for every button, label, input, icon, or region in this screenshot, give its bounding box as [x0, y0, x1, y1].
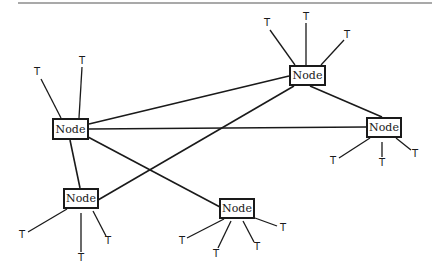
terminal-label[interactable]: T [19, 230, 25, 240]
terminal-label[interactable]: T [379, 158, 385, 168]
terminal-link [243, 221, 254, 242]
terminal-label[interactable]: T [303, 12, 309, 22]
terminal-link [28, 209, 67, 232]
terminal-link [41, 79, 61, 118]
terminal-link [270, 30, 295, 65]
terminal-label[interactable]: T [254, 242, 260, 252]
link-n_top_right-n_right [310, 86, 382, 117]
node-label: Node [222, 202, 252, 215]
terminal-link [339, 138, 370, 158]
terminal-link [218, 221, 231, 248]
node-label: Node [369, 121, 399, 134]
link-n_left-n_bottom_center [88, 137, 220, 207]
terminal-label[interactable]: T [179, 236, 185, 246]
terminal-label[interactable]: T [330, 156, 336, 166]
node-box-n_bottom_center[interactable]: Node [219, 198, 255, 219]
link-n_left-n_right [89, 127, 366, 129]
terminal-label[interactable]: T [34, 67, 40, 77]
network-diagram: NodeNodeNodeNodeNode TTTTTTTTTTTTTTT [0, 0, 436, 279]
terminal-label[interactable]: T [344, 30, 350, 40]
node-box-n_bottom_left[interactable]: Node [63, 188, 99, 209]
link-n_left-n_bottom_left [70, 140, 80, 188]
node-label: Node [66, 192, 96, 205]
link-n_top_right-n_bottom_left [98, 86, 294, 200]
terminal-label[interactable]: T [264, 18, 270, 28]
node-label: Node [56, 123, 86, 136]
terminal-label[interactable]: T [213, 249, 219, 259]
terminal-label[interactable]: T [412, 149, 418, 159]
terminal-link [321, 40, 344, 65]
terminal-label[interactable]: T [79, 56, 85, 66]
node-label: Node [293, 69, 323, 82]
terminal-link [396, 138, 411, 150]
terminal-link [93, 211, 106, 236]
terminal-link [79, 67, 82, 118]
node-box-n_right[interactable]: Node [366, 117, 402, 138]
terminal-label[interactable]: T [78, 253, 84, 263]
terminal-link [187, 219, 224, 238]
terminal-label[interactable]: T [105, 236, 111, 246]
node-box-n_top_right[interactable]: Node [289, 65, 326, 86]
node-box-n_left[interactable]: Node [52, 118, 89, 140]
terminal-link [255, 218, 277, 226]
link-n_left-n_top_right [89, 76, 289, 124]
terminal-label[interactable]: T [280, 223, 286, 233]
